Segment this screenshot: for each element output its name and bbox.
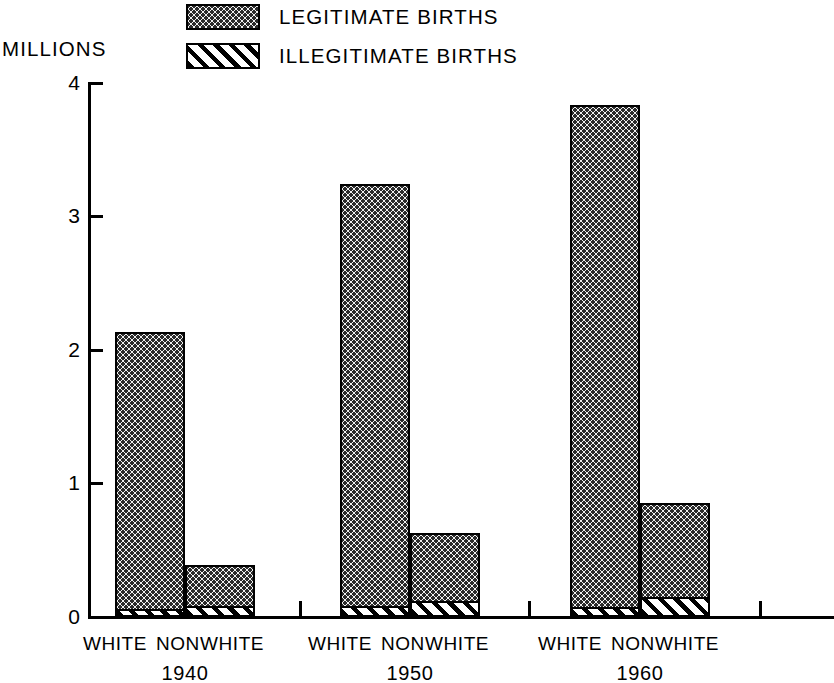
bar-1960-nonwhite-illegitimate xyxy=(640,597,710,617)
x-tick-separator-2 xyxy=(528,601,531,616)
bar-1940-white-legitimate xyxy=(115,332,185,617)
y-tick-mark-2 xyxy=(88,349,103,352)
group-label-1950: 1950 xyxy=(360,663,460,683)
bar-1950-nonwhite-illegitimate xyxy=(410,601,480,617)
y-tick-label-1: 1 xyxy=(40,472,80,493)
bar-label-1940-nonwhite: NONWHITE xyxy=(150,634,270,653)
bar-label-1950-white: WHITE xyxy=(305,634,375,653)
y-tick-label-0: 0 xyxy=(40,606,80,627)
bar-1960-white-legitimate xyxy=(570,105,640,617)
y-tick-mark-1 xyxy=(88,482,103,485)
group-label-1960: 1960 xyxy=(590,663,690,683)
y-tick-label-4: 4 xyxy=(40,72,80,93)
x-tick-separator-1 xyxy=(299,601,302,616)
bar-1950-white-legitimate xyxy=(340,184,410,617)
y-tick-mark-3 xyxy=(88,215,103,218)
y-tick-mark-4 xyxy=(88,82,103,85)
bar-1960-white-illegitimate xyxy=(570,607,640,617)
bar-1940-white-illegitimate xyxy=(115,609,185,617)
y-tick-mark-0 xyxy=(88,616,103,619)
bar-label-1960-nonwhite: NONWHITE xyxy=(605,634,725,653)
bar-1940-nonwhite-illegitimate xyxy=(185,606,255,617)
y-tick-label-3: 3 xyxy=(40,205,80,226)
bar-1950-white-illegitimate xyxy=(340,606,410,617)
bar-label-1960-white: WHITE xyxy=(535,634,605,653)
births-bar-chart: LEGITIMATE BIRTHS ILLEGITIMATE BIRTHS MI… xyxy=(0,0,834,683)
x-tick-separator-3 xyxy=(759,601,762,616)
bar-label-1940-white: WHITE xyxy=(80,634,150,653)
group-label-1940: 1940 xyxy=(135,663,235,683)
bar-label-1950-nonwhite: NONWHITE xyxy=(375,634,495,653)
plot-area: 0 1 2 3 4 WHITE NONWHITE 1940 WHITE NONW… xyxy=(0,0,834,683)
y-tick-label-2: 2 xyxy=(40,339,80,360)
